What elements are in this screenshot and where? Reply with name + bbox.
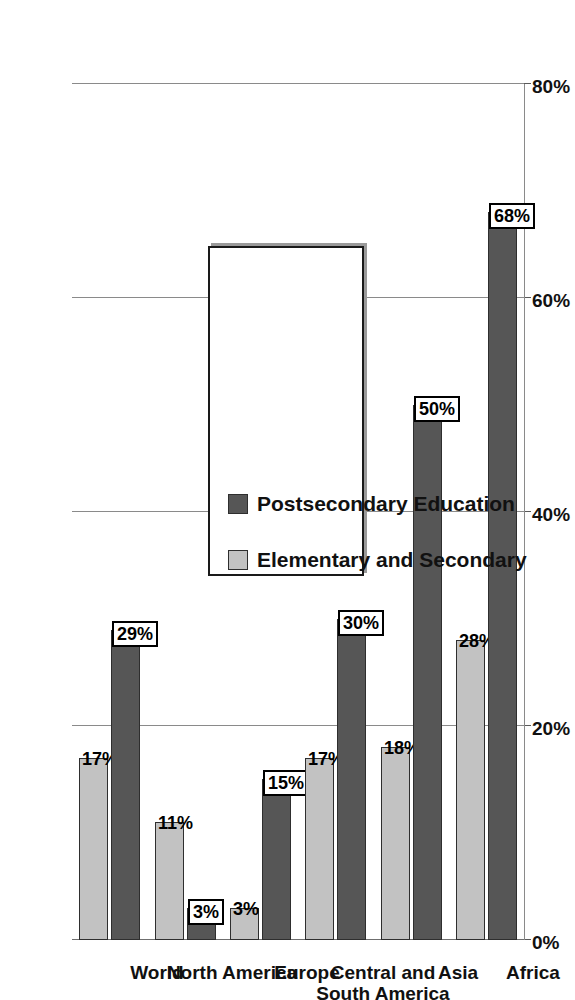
bar-value-label: 29% <box>112 621 158 647</box>
tick-label: 40% <box>532 504 570 526</box>
axis-tick <box>524 725 531 726</box>
category-label: Africa <box>438 962 575 983</box>
axis-tick <box>524 297 531 298</box>
chart-legend: Elementary and SecondaryPostsecondary Ed… <box>208 246 364 576</box>
bar-elementary-secondary[interactable] <box>381 747 410 940</box>
tick-label: 20% <box>532 718 570 740</box>
legend-item[interactable]: Elementary and Secondary <box>228 548 527 572</box>
legend-label: Elementary and Secondary <box>257 548 527 572</box>
bar-elementary-secondary[interactable] <box>155 822 184 940</box>
bar-elementary-secondary[interactable] <box>79 758 108 940</box>
bar-value-label: 11% <box>156 813 195 833</box>
bar-value-label: 3% <box>231 899 261 919</box>
axis-tick <box>524 939 531 940</box>
legend-swatch-icon <box>228 550 248 570</box>
bar-elementary-secondary[interactable] <box>305 758 334 940</box>
bar-postsecondary[interactable] <box>262 780 291 941</box>
bar-value-label: 68% <box>489 203 535 229</box>
bar-value-label: 30% <box>338 610 384 636</box>
bar-postsecondary[interactable] <box>337 619 366 940</box>
legend-item[interactable]: Postsecondary Education <box>228 492 515 516</box>
legend-label: Postsecondary Education <box>257 492 515 516</box>
bar-elementary-secondary[interactable] <box>456 640 485 940</box>
tick-label: 80% <box>532 76 570 98</box>
bar-value-label: 50% <box>414 396 460 422</box>
axis-tick <box>524 511 531 512</box>
gridline <box>72 83 524 84</box>
bar-postsecondary[interactable] <box>488 212 517 940</box>
bar-value-label: 15% <box>263 771 309 797</box>
tick-label: 60% <box>532 290 570 312</box>
bar-postsecondary[interactable] <box>111 630 140 940</box>
legend-swatch-icon <box>228 494 248 514</box>
axis-tick <box>524 83 531 84</box>
bar-postsecondary[interactable] <box>413 405 442 940</box>
tick-label: 0% <box>532 932 559 954</box>
bar-value-label: 3% <box>188 899 224 925</box>
